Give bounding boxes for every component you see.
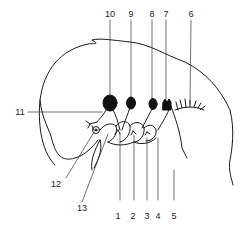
label-5: 5 [171,212,176,221]
label-4: 4 [155,212,160,221]
label-6: 6 [188,10,193,19]
label-13: 13 [77,204,87,213]
label-7: 7 [163,10,168,19]
pharyngeal-arches [100,122,156,146]
label-1: 1 [115,212,120,221]
ganglion-8 [149,99,157,110]
label-8: 8 [149,10,154,19]
label-11: 11 [15,108,24,117]
label-9: 9 [128,10,133,19]
ganglion-7 [163,99,171,110]
ganglion-9 [127,97,136,109]
embryo-diagram [0,0,241,229]
label-3: 3 [144,212,149,221]
face-contour [40,100,98,159]
nerve-trunks [97,106,187,158]
label-2: 2 [130,212,135,221]
eye-pupil [95,129,97,131]
label-12: 12 [51,180,61,189]
ganglion-10 [103,95,117,111]
label-10: 10 [105,10,115,19]
